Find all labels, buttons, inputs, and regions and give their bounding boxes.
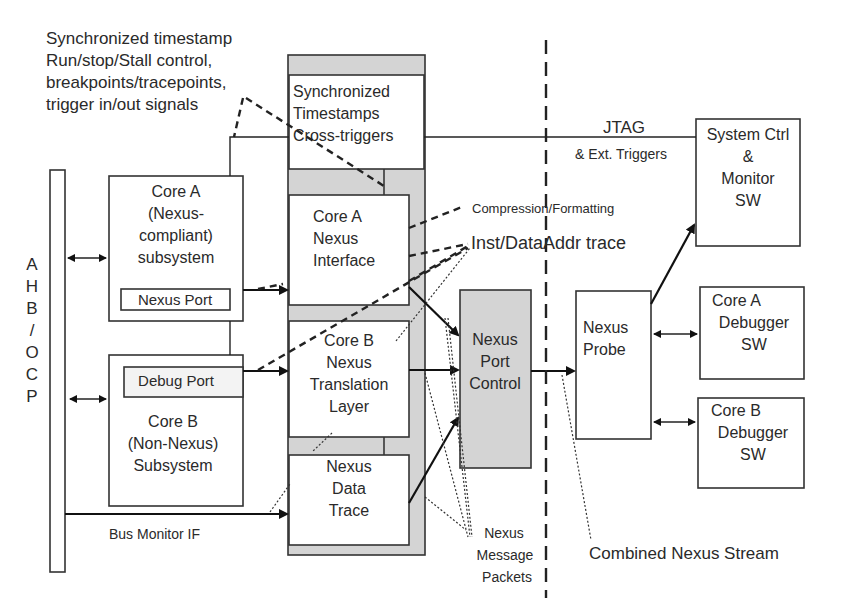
- bus-label-4: /: [30, 321, 35, 340]
- core-b-subsystem-block: Debug Port Core B (Non-Nexus) Subsystem: [109, 355, 243, 506]
- nexus-probe-block: Nexus Probe: [576, 291, 651, 439]
- cbnt-line-3: Translation: [310, 376, 389, 393]
- npc-line-3: Control: [469, 375, 521, 392]
- sync-line-1: Synchronized: [293, 83, 390, 100]
- nexus-architecture-diagram: Synchronized Timestamps Cross-triggers C…: [0, 0, 842, 616]
- core-a-nexus-interface-block: Core A Nexus Interface: [289, 195, 409, 305]
- sys-line-4: SW: [735, 192, 762, 209]
- nexus-data-trace-block: Nexus Data Trace: [289, 455, 409, 545]
- combined-stream-label: Combined Nexus Stream: [589, 544, 779, 563]
- compression-label: Compression/Formatting: [472, 201, 614, 216]
- core-b-line-2: (Non-Nexus): [128, 435, 219, 452]
- inst-trace-label: Inst/DataAddr trace: [471, 233, 626, 253]
- ahb-ocp-bus: A H B / O C P: [25, 170, 65, 572]
- cbnt-line-4: Layer: [329, 398, 370, 415]
- sys-line-3: Monitor: [721, 170, 775, 187]
- sync-line-3: Cross-triggers: [293, 127, 393, 144]
- probe-line-1: Nexus: [583, 319, 628, 336]
- npc-line-2: Port: [480, 353, 510, 370]
- bus-monitor-label: Bus Monitor IF: [109, 526, 200, 542]
- cad-line-2: Debugger: [719, 314, 790, 331]
- bus-label-7: P: [26, 387, 37, 406]
- cbd-line-3: SW: [740, 446, 767, 463]
- system-ctrl-monitor-block: System Ctrl & Monitor SW: [696, 119, 800, 246]
- top-annotation-line-1: Synchronized timestamp: [46, 29, 232, 48]
- cani-line-2: Nexus: [313, 230, 358, 247]
- top-annotation-line-3: breakpoints/tracepoints,: [46, 73, 227, 92]
- cani-line-3: Interface: [313, 252, 375, 269]
- packets-line-3: Packets: [482, 569, 532, 585]
- cbd-line-1: Core B: [711, 402, 761, 419]
- bus-label-3: B: [26, 299, 37, 318]
- packets-line-2: Message: [477, 547, 534, 563]
- cbd-line-2: Debugger: [718, 424, 789, 441]
- nexus-port-label: Nexus Port: [138, 291, 213, 308]
- sync-line-2: Timestamps: [293, 105, 380, 122]
- top-annotation-line-2: Run/stop/Stall control,: [46, 51, 212, 70]
- npc-line-1: Nexus: [472, 331, 517, 348]
- core-b-line-3: Subsystem: [133, 457, 212, 474]
- ndt-line-3: Trace: [329, 502, 369, 519]
- top-annotation-line-4: trigger in/out signals: [46, 95, 198, 114]
- core-a-subsystem-block: Core A (Nexus- compliant) subsystem Nexu…: [109, 176, 243, 321]
- sync-timestamps-block: Synchronized Timestamps Cross-triggers: [289, 75, 424, 169]
- bus-label-1: A: [26, 255, 38, 274]
- bus-label-6: C: [26, 365, 38, 384]
- nexus-port-control-block: Nexus Port Control: [460, 290, 531, 468]
- debug-port-label: Debug Port: [138, 372, 215, 389]
- core-a-line-4: subsystem: [138, 249, 214, 266]
- cad-line-1: Core A: [712, 292, 761, 309]
- core-a-debugger-block: Core A Debugger SW: [700, 287, 804, 379]
- core-b-line-1: Core B: [148, 413, 198, 430]
- cad-line-3: SW: [741, 336, 768, 353]
- core-a-line-2: (Nexus-: [148, 205, 204, 222]
- ext-triggers-label: & Ext. Triggers: [575, 146, 667, 162]
- sys-line-1: System Ctrl: [707, 126, 790, 143]
- cani-line-1: Core A: [313, 208, 362, 225]
- sys-line-2: &: [743, 148, 754, 165]
- jtag-label: JTAG: [603, 118, 645, 137]
- cbnt-line-2: Nexus: [326, 354, 371, 371]
- core-a-line-3: compliant): [139, 227, 213, 244]
- ndt-line-2: Data: [332, 480, 366, 497]
- packets-line-1: Nexus: [484, 525, 524, 541]
- core-a-line-1: Core A: [152, 183, 201, 200]
- ndt-line-1: Nexus: [326, 458, 371, 475]
- core-b-translation-block: Core B Nexus Translation Layer: [289, 321, 409, 437]
- cbnt-line-1: Core B: [324, 332, 374, 349]
- bus-label-2: H: [26, 277, 38, 296]
- probe-line-2: Probe: [583, 341, 626, 358]
- bus-label-5: O: [25, 343, 38, 362]
- core-b-debugger-block: Core B Debugger SW: [698, 398, 804, 488]
